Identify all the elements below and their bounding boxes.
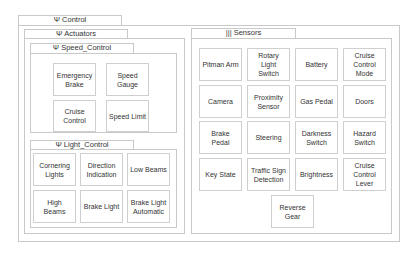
sensor-battery[interactable]: Battery bbox=[295, 48, 338, 81]
sensor-rotary-light-switch[interactable]: Rotary Light Switch bbox=[247, 48, 290, 81]
sensors-title: ||| Sensors bbox=[226, 28, 261, 37]
sensor-reverse-gear[interactable]: Reverse Gear bbox=[271, 195, 314, 228]
sensor-cruise-control-mode[interactable]: Cruise Control Mode bbox=[343, 48, 386, 81]
sensor-pitman-arm[interactable]: Pitman Arm bbox=[199, 48, 242, 81]
sensor-brightness[interactable]: Brightness bbox=[295, 158, 338, 191]
component-brake-light-automatic[interactable]: Brake Light Automatic bbox=[127, 190, 170, 223]
sensor-darkness-switch[interactable]: Darkness Switch bbox=[295, 121, 338, 154]
sensor-traffic-sign-detection[interactable]: Traffic Sign Detection bbox=[247, 158, 290, 191]
component-emergency-brake[interactable]: Emergency Brake bbox=[53, 63, 96, 96]
component-speed-gauge[interactable]: Speed Gauge bbox=[106, 63, 149, 96]
sensor-doors[interactable]: Doors bbox=[343, 85, 386, 118]
control-title: Ψ Control bbox=[54, 15, 87, 24]
component-cornering-lights[interactable]: Cornering Lights bbox=[33, 153, 76, 186]
sensor-hazard-switch[interactable]: Hazard Switch bbox=[343, 121, 386, 154]
speed-control-title: Ψ Speed_Control bbox=[53, 43, 111, 52]
component-cruise-control[interactable]: Cruise Control bbox=[53, 100, 96, 132]
sensor-brake-pedal[interactable]: Brake Pedal bbox=[199, 121, 242, 154]
sensor-cruise-control-lever[interactable]: Cruise Control Lever bbox=[343, 158, 386, 191]
sensor-camera[interactable]: Camera bbox=[199, 85, 242, 118]
sensor-key-state[interactable]: Key State bbox=[199, 158, 242, 191]
component-high-beams[interactable]: High Beams bbox=[33, 190, 76, 223]
component-direction-indication[interactable]: Direction Indication bbox=[80, 153, 123, 186]
light-control-title: Ψ Light_Control bbox=[56, 140, 109, 149]
component-speed-limit[interactable]: Speed Limit bbox=[106, 100, 149, 132]
sensor-steering[interactable]: Steering bbox=[247, 121, 290, 154]
component-low-beams[interactable]: Low Beams bbox=[127, 153, 170, 186]
sensor-gas-pedal[interactable]: Gas Pedal bbox=[295, 85, 338, 118]
sensor-proximity-sensor[interactable]: Proximity Sensor bbox=[247, 85, 290, 118]
actuators-title: Ψ Actuators bbox=[56, 29, 96, 38]
component-brake-light[interactable]: Brake Light bbox=[80, 190, 123, 223]
